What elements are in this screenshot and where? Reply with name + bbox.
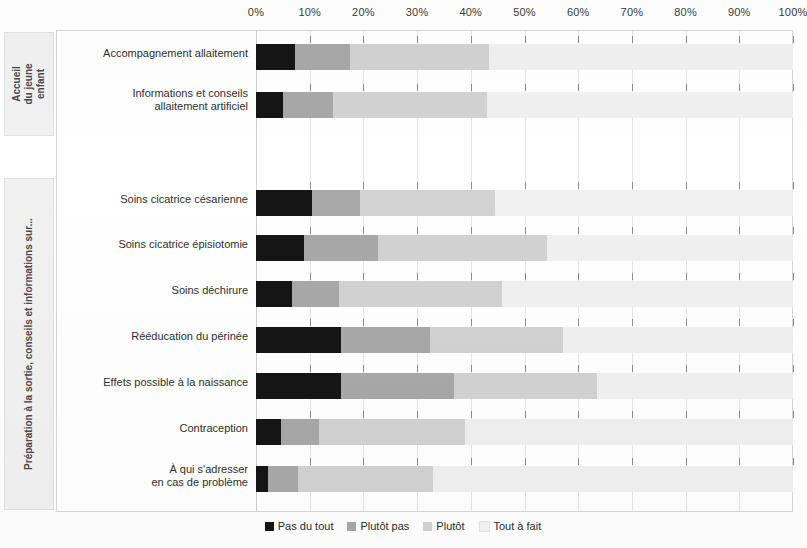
axis-tick-mark: [632, 458, 633, 465]
group-band-label-line2: du jeune enfant: [23, 60, 47, 108]
axis-tick-mark: [471, 227, 472, 234]
axis-tick-mark: [686, 182, 687, 189]
bar-segment-tout-à-fait[interactable]: [495, 190, 793, 216]
axis-tick-mark: [310, 458, 311, 465]
x-axis-tick-0: 0%: [248, 6, 264, 18]
bar-segment-tout-à-fait[interactable]: [487, 92, 793, 118]
bar-segment-tout-à-fait[interactable]: [465, 419, 793, 445]
bar-segment-plutôt-pas[interactable]: [304, 235, 378, 261]
bar-segment-pas-du-tout[interactable]: [256, 466, 268, 492]
bar-row[interactable]: [256, 190, 793, 216]
axis-tick-mark: [417, 84, 418, 91]
bar-segment-plutôt[interactable]: [333, 92, 487, 118]
bar-segment-plutôt-pas[interactable]: [341, 327, 430, 353]
bar-segment-pas-du-tout[interactable]: [256, 44, 295, 70]
bar-segment-plutôt[interactable]: [454, 373, 597, 399]
bar-segment-pas-du-tout[interactable]: [256, 92, 283, 118]
axis-tick-mark: [739, 36, 740, 43]
bar-row[interactable]: [256, 281, 793, 307]
bar-segment-plutôt-pas[interactable]: [312, 190, 360, 216]
legend-label: Tout à fait: [494, 520, 542, 532]
bar-segment-plutôt[interactable]: [350, 44, 489, 70]
bar-segment-tout-à-fait[interactable]: [433, 466, 793, 492]
axis-tick-mark: [578, 84, 579, 91]
bar-segment-plutôt[interactable]: [319, 419, 465, 445]
bar-segment-pas-du-tout[interactable]: [256, 235, 304, 261]
axis-tick-mark: [471, 273, 472, 280]
category-label-line1: Accompagnement allaitement: [58, 47, 248, 60]
bar-segment-plutôt[interactable]: [298, 466, 433, 492]
axis-tick-mark: [793, 458, 794, 465]
axis-tick-mark: [310, 273, 311, 280]
x-axis-tick-20: 20%: [352, 6, 375, 18]
bar-row[interactable]: [256, 92, 793, 118]
bar-segment-plutôt-pas[interactable]: [283, 92, 332, 118]
axis-tick-mark: [471, 84, 472, 91]
x-axis-tick-60: 60%: [567, 6, 590, 18]
bar-row[interactable]: [256, 419, 793, 445]
bar-segment-plutôt-pas[interactable]: [268, 466, 298, 492]
legend-item-plutôt[interactable]: Plutôt: [423, 520, 464, 532]
x-axis-tick-30: 30%: [406, 6, 429, 18]
group-band-label: Accueildu jeune enfant: [11, 60, 47, 108]
axis-tick-mark: [632, 319, 633, 326]
bar-segment-tout-à-fait[interactable]: [547, 235, 793, 261]
axis-tick-mark: [686, 319, 687, 326]
bar-segment-tout-à-fait[interactable]: [489, 44, 793, 70]
bar-segment-tout-à-fait[interactable]: [502, 281, 793, 307]
axis-tick-mark: [363, 458, 364, 465]
category-label-line1: Contraception: [58, 422, 248, 435]
axis-tick-mark: [363, 227, 364, 234]
bar-row[interactable]: [256, 373, 793, 399]
bar-segment-pas-du-tout[interactable]: [256, 281, 292, 307]
bar-segment-plutôt-pas[interactable]: [281, 419, 319, 445]
bar-segment-plutôt-pas[interactable]: [295, 44, 350, 70]
legend-item-tout-à-fait[interactable]: Tout à fait: [479, 520, 542, 532]
legend-swatch-icon: [265, 522, 274, 531]
bar-row[interactable]: [256, 44, 793, 70]
axis-tick-mark: [310, 36, 311, 43]
bar-segment-plutôt-pas[interactable]: [292, 281, 339, 307]
axis-tick-mark: [525, 273, 526, 280]
bar-segment-pas-du-tout[interactable]: [256, 190, 312, 216]
bar-segment-plutôt[interactable]: [430, 327, 563, 353]
bar-segment-tout-à-fait[interactable]: [563, 327, 793, 353]
x-axis-tick-40: 40%: [459, 6, 482, 18]
category-label-line1: Soins cicatrice épisiotomie: [58, 238, 248, 251]
bar-segment-plutôt[interactable]: [339, 281, 502, 307]
axis-tick-mark: [525, 365, 526, 372]
bar-segment-pas-du-tout[interactable]: [256, 419, 281, 445]
axis-tick-mark: [578, 182, 579, 189]
axis-tick-mark: [363, 319, 364, 326]
axis-tick-mark: [417, 273, 418, 280]
axis-tick-mark: [363, 36, 364, 43]
category-label-2: Soins cicatrice césarienne: [58, 193, 248, 206]
axis-tick-mark: [310, 182, 311, 189]
legend-item-pas-du-tout[interactable]: Pas du tout: [265, 520, 334, 532]
axis-tick-mark: [793, 273, 794, 280]
bar-segment-plutôt[interactable]: [378, 235, 547, 261]
category-label-column: Accompagnement allaitementInformations e…: [56, 30, 256, 512]
axis-tick-mark: [417, 36, 418, 43]
bar-segment-pas-du-tout[interactable]: [256, 373, 341, 399]
category-label-0: Accompagnement allaitement: [58, 47, 248, 60]
bar-segment-tout-à-fait[interactable]: [597, 373, 793, 399]
axis-tick-mark: [686, 84, 687, 91]
bar-row[interactable]: [256, 466, 793, 492]
bar-segment-plutôt-pas[interactable]: [341, 373, 454, 399]
category-label-line1: Soins cicatrice césarienne: [58, 193, 248, 206]
axis-tick-mark: [686, 365, 687, 372]
axis-tick-mark: [793, 182, 794, 189]
bar-row[interactable]: [256, 235, 793, 261]
bar-segment-pas-du-tout[interactable]: [256, 327, 341, 353]
bar-row[interactable]: [256, 327, 793, 353]
axis-tick-mark: [686, 227, 687, 234]
bar-segment-plutôt[interactable]: [360, 190, 495, 216]
axis-tick-mark: [525, 319, 526, 326]
legend-label: Pas du tout: [278, 520, 334, 532]
axis-tick-mark: [525, 36, 526, 43]
category-label-4: Soins déchirure: [58, 284, 248, 297]
axis-tick-mark: [686, 458, 687, 465]
legend-item-plutôt-pas[interactable]: Plutôt pas: [347, 520, 409, 532]
